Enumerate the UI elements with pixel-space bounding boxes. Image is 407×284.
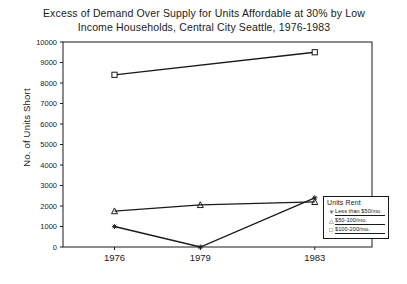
y-tick-label: 8000 <box>40 79 57 88</box>
data-series-group <box>112 50 318 250</box>
legend-title: Units Rent <box>327 199 385 206</box>
y-tick-label: 7000 <box>40 99 57 108</box>
y-tick-label: 0 <box>53 243 57 252</box>
legend-item-label: Less than $50/mo. <box>335 208 385 216</box>
legend[interactable]: Units Rent ✳Less than $50/mo.△$50-100/mo… <box>323 196 389 239</box>
x-tick-label: 1976 <box>104 252 125 263</box>
y-tick-label: 3000 <box>40 181 57 190</box>
legend-item[interactable]: △$50-100/mo. <box>327 217 385 226</box>
x-tick-label: 1979 <box>190 252 211 263</box>
legend-marker-triangle-icon: △ <box>327 217 335 225</box>
legend-item-label: $100-200/mo. <box>335 226 385 234</box>
y-tick-label: 4000 <box>40 161 57 170</box>
series-line <box>115 202 315 211</box>
y-tick-label: 2000 <box>40 202 57 211</box>
plot-area: 0100020003000400050006000700080009000100… <box>0 0 407 284</box>
y-tick-label: 10000 <box>36 38 57 47</box>
legend-item[interactable]: ✳Less than $50/mo. <box>327 208 385 217</box>
legend-item[interactable]: □$100-200/mo. <box>327 226 385 235</box>
data-point-square <box>112 72 117 77</box>
data-series <box>112 195 317 249</box>
legend-marker-asterisk-icon: ✳ <box>327 208 335 216</box>
legend-item-label: $50-100/mo. <box>335 217 385 225</box>
series-line <box>115 52 315 75</box>
y-axis-ticks: 0100020003000400050006000700080009000100… <box>36 38 63 252</box>
data-series <box>112 50 317 78</box>
x-tick-label: 1983 <box>304 252 325 263</box>
data-point-asterisk <box>198 244 203 249</box>
data-series <box>112 199 318 214</box>
y-tick-label: 1000 <box>40 222 57 231</box>
y-tick-label: 9000 <box>40 58 57 67</box>
legend-marker-square-icon: □ <box>327 226 335 234</box>
y-tick-label: 5000 <box>40 140 57 149</box>
y-tick-label: 6000 <box>40 120 57 129</box>
x-axis-ticks: 197619791983 <box>104 247 325 263</box>
chart-figure: Excess of Demand Over Supply for Units A… <box>0 0 407 284</box>
data-point-asterisk <box>112 224 117 229</box>
legend-items: ✳Less than $50/mo.△$50-100/mo.□$100-200/… <box>327 208 385 235</box>
data-point-square <box>312 50 317 55</box>
